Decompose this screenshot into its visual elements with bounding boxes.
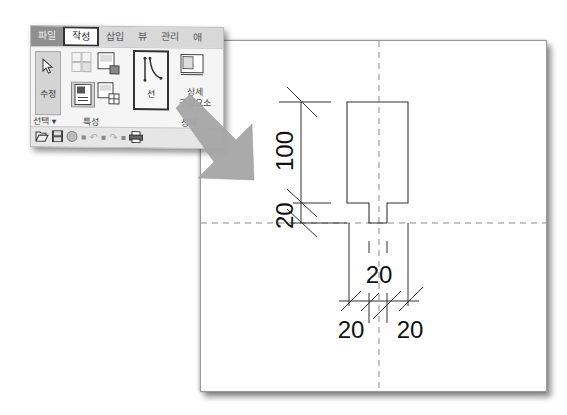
modify-label: 수정	[36, 87, 60, 100]
column-outline	[347, 102, 408, 223]
properties-icon[interactable]	[71, 81, 95, 107]
tab-view[interactable]: 뷰	[131, 27, 154, 47]
quick-access-toolbar: ▪ ↶ ▪ ↷ ▪	[31, 126, 223, 148]
line-label: 선	[135, 87, 167, 100]
detail-component-icon[interactable]	[179, 53, 207, 81]
dimension-label-100: 100	[271, 131, 298, 171]
ribbon-body: 수정 선택 ▾ 특성	[31, 46, 223, 129]
dropdown-caret[interactable]: ▪	[101, 133, 106, 142]
dimension-label-20-center: 20	[366, 261, 393, 288]
tab-addins[interactable]: 애	[186, 28, 209, 48]
drawing-canvas[interactable]: 100 20 20 20 20	[200, 40, 547, 392]
undo-icon[interactable]: ↶	[89, 132, 97, 143]
ribbon-panel: 파일 작성 삽입 뷰 관리 애 수정 선택 ▾	[30, 25, 224, 149]
tab-insert[interactable]: 삽입	[99, 27, 131, 47]
tab-file[interactable]: 파일	[31, 26, 63, 46]
detail-component-label[interactable]: 상세 구성요소	[173, 86, 217, 108]
dimension-label-20-right: 20	[397, 316, 424, 343]
drawing-svg: 100 20 20 20 20	[201, 41, 546, 391]
tab-manage[interactable]: 관리	[154, 27, 186, 47]
ribbon-tabs: 파일 작성 삽입 뷰 관리 애	[31, 26, 223, 48]
redo-icon[interactable]: ↷	[109, 132, 117, 143]
modify-button[interactable]: 수정	[35, 51, 61, 115]
dropdown-caret[interactable]: ▪	[81, 133, 86, 142]
open-icon[interactable]	[35, 130, 49, 144]
tab-create[interactable]: 작성	[63, 26, 99, 46]
dimension-label-20-left: 20	[338, 316, 365, 343]
family-editor-icon[interactable]	[97, 52, 121, 76]
save-icon[interactable]	[52, 130, 63, 144]
line-button[interactable]: 선	[133, 50, 169, 110]
type-selector-icon[interactable]	[97, 82, 121, 106]
print-icon[interactable]	[129, 131, 143, 145]
sync-icon[interactable]	[66, 130, 78, 144]
cursor-arrow-icon	[42, 58, 54, 74]
line-tool-icon	[141, 56, 163, 84]
type-properties-icon[interactable]	[71, 51, 93, 73]
dimension-label-20-vertical: 20	[271, 202, 298, 229]
dropdown-caret[interactable]: ▪	[121, 133, 126, 142]
